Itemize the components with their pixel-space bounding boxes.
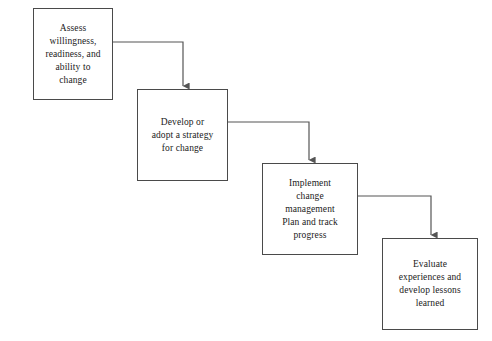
connector-implement-to-evaluate — [358, 196, 431, 235]
node-evaluate-experiences: Evaluate experiences and develop lessons… — [382, 238, 478, 330]
node-develop-strategy-label: Develop or adopt a strategy for change — [149, 116, 217, 155]
node-evaluate-experiences-label: Evaluate experiences and develop lessons… — [396, 258, 464, 310]
connector-develop-to-implement — [228, 122, 309, 160]
node-assess-willingness: Assess willingness, readiness, and abili… — [33, 8, 113, 100]
connector-assess-to-develop — [113, 42, 183, 86]
node-implement-change-management-label: Implement change management Plan and tra… — [279, 177, 341, 242]
flowchart-diagram: Assess willingness, readiness, and abili… — [0, 0, 492, 341]
node-develop-strategy: Develop or adopt a strategy for change — [137, 89, 228, 181]
node-assess-willingness-label: Assess willingness, readiness, and abili… — [42, 22, 103, 87]
node-implement-change-management: Implement change management Plan and tra… — [262, 163, 358, 255]
